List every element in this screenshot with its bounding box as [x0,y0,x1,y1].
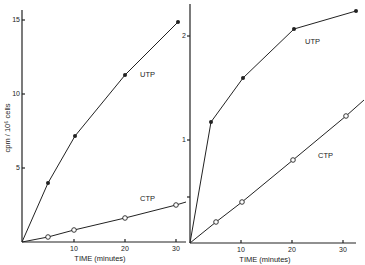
left-utp-line [22,22,178,242]
left-x-axis-label: TIME (minutes) [74,254,126,263]
right-xtick-20: 20 [288,246,296,253]
right-utp-label: UTP [305,37,320,46]
left-ctp-label: CTP [140,194,155,203]
left-panel: 5 10 15 10 20 30 TIME (minutes) cpm / 10… [3,10,186,263]
right-panel: 1 2 10 20 30 TIME (minutes) UTP CTP [182,4,364,264]
right-ytick-2: 2 [182,32,186,39]
left-ytick-10: 10 [12,90,20,97]
left-ytick-5: 5 [16,164,20,171]
left-ytick-15: 15 [12,16,20,23]
left-xtick-30: 30 [172,245,180,252]
right-xtick-30: 30 [339,246,347,253]
left-y-axis-label: cpm / 10⁶ cells [3,103,12,152]
left-xtick-20: 20 [121,245,129,252]
right-x-axis-label: TIME (minutes) [239,255,291,264]
right-utp-line [190,11,356,243]
chart-figure: 5 10 15 10 20 30 TIME (minutes) cpm / 10… [0,0,365,265]
left-xtick-10: 10 [70,245,78,252]
right-xtick-10: 10 [237,246,245,253]
left-utp-label: UTP [140,70,155,79]
right-ytick-1: 1 [182,136,186,143]
right-ctp-label: CTP [318,151,333,160]
